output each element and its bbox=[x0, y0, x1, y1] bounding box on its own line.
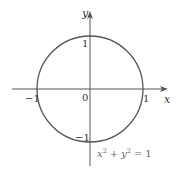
tick-label-y-pos: 1 bbox=[82, 38, 88, 49]
tick-label-x-pos: 1 bbox=[143, 93, 149, 104]
x-axis-label: x bbox=[164, 93, 171, 106]
equation-equals: = bbox=[134, 148, 142, 159]
origin-label: 0 bbox=[82, 92, 88, 103]
equation-rhs: 1 bbox=[145, 148, 151, 159]
y-axis-label: y bbox=[81, 7, 89, 20]
unit-circle-diagram: y x 0 1 −1 −1 1 x2+y2=1 bbox=[0, 0, 178, 171]
tick-label-y-neg: −1 bbox=[75, 132, 90, 143]
tick-label-x-neg: −1 bbox=[25, 93, 40, 104]
equation-y-exponent: 2 bbox=[127, 147, 131, 155]
equation-x-exponent: 2 bbox=[103, 147, 107, 155]
equation-label: x2+y2=1 bbox=[97, 147, 152, 159]
equation-plus: + bbox=[110, 148, 118, 159]
